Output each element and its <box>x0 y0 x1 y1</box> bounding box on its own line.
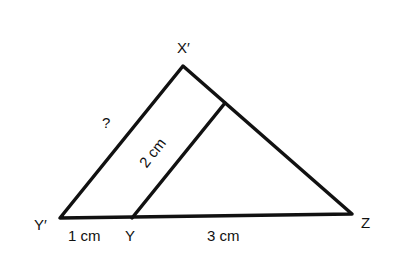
label-y: Y <box>125 228 135 243</box>
label-z: Z <box>361 215 370 230</box>
outer-triangle <box>60 66 352 218</box>
label-y-prime: Y′ <box>34 217 47 232</box>
label-segment-1cm: 1 cm <box>68 228 101 243</box>
label-x-prime: X′ <box>177 40 190 55</box>
label-segment-3cm: 3 cm <box>207 228 240 243</box>
label-unknown-side: ? <box>102 115 110 130</box>
diagram-canvas: X′ Y′ Y Z ? 1 cm 3 cm 2 cm <box>0 0 394 276</box>
triangle-figure <box>0 0 394 276</box>
